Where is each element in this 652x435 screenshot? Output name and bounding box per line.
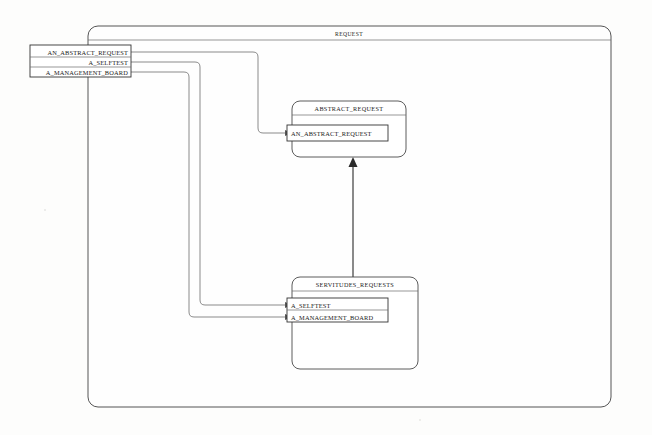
outer-container-title: REQUEST [335, 31, 363, 37]
block-abstract-request-port-an-abstract-request[interactable]: AN_ABSTRACT_REQUEST [291, 130, 372, 137]
external-port-a-selftest[interactable]: A_SELFTEST [89, 59, 129, 66]
block-diagram: REQUEST AN_ABSTRACT_REQUEST A_SELFTEST A [0, 0, 652, 435]
external-port-a-management-board[interactable]: A_MANAGEMENT_BOARD [46, 69, 128, 76]
block-abstract-request[interactable]: ABSTRACT_REQUEST AN_ABSTRACT_REQUEST [287, 101, 406, 157]
diagram-canvas: REQUEST AN_ABSTRACT_REQUEST A_SELFTEST A [0, 0, 652, 435]
block-servitudes-requests-port-a-selftest[interactable]: A_SELFTEST [291, 302, 331, 309]
block-abstract-request-title: ABSTRACT_REQUEST [315, 105, 384, 112]
external-port-an-abstract-request[interactable]: AN_ABSTRACT_REQUEST [47, 49, 128, 56]
external-port-group[interactable]: AN_ABSTRACT_REQUEST A_SELFTEST A_MANAGEM… [30, 45, 131, 77]
block-servitudes-requests-title: SERVITUDES_REQUESTS [316, 281, 395, 288]
block-servitudes-requests-port-a-management-board[interactable]: A_MANAGEMENT_BOARD [291, 314, 373, 321]
block-servitudes-requests[interactable]: SERVITUDES_REQUESTS A_SELFTEST A_MANAGEM… [287, 277, 418, 369]
